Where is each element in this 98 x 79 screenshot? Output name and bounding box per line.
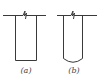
pile-outline-flat-bottom xyxy=(16,16,37,61)
break-mark-a xyxy=(23,11,27,19)
panel-a: (a) xyxy=(3,11,46,75)
pile-outline-rounded-bottom xyxy=(64,16,83,63)
panel-label-a: (a) xyxy=(20,66,31,75)
panel-label-b: (b) xyxy=(68,66,79,75)
pile-diagram: (a) (b) xyxy=(0,0,98,79)
break-mark-b xyxy=(71,11,75,19)
panel-b: (b) xyxy=(57,11,97,75)
